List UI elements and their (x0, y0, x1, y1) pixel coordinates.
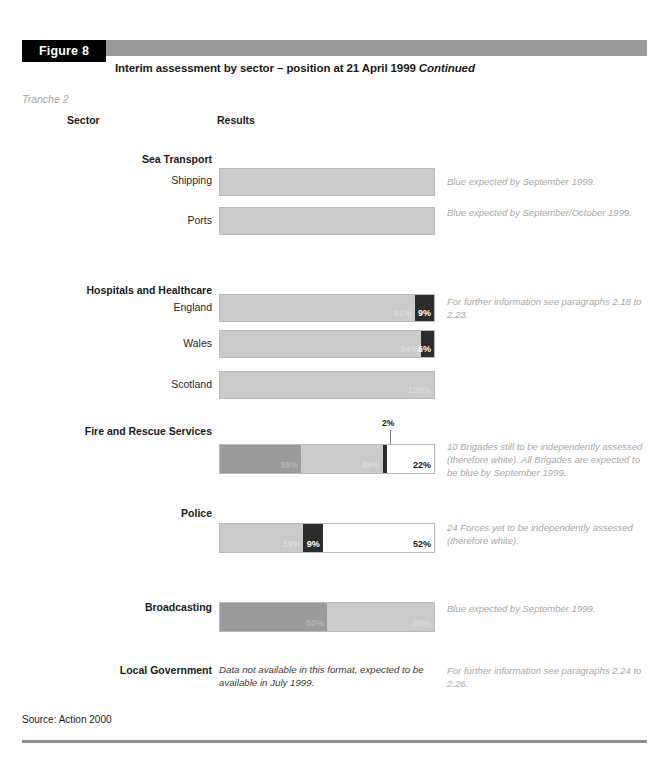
bar-segment-black: 9% (303, 524, 322, 552)
segment-pct-label: 100% (408, 386, 434, 398)
callout-2-percent: 2% (382, 418, 394, 428)
bar-police: 39% 9% 52% (219, 523, 435, 553)
group-label-fire-and-rescue-services: Fire and Rescue Services (12, 425, 212, 437)
bar-segment-amber (220, 169, 434, 195)
bar-ports (219, 207, 435, 235)
local-government-text: Data not available in this format, expec… (219, 663, 431, 690)
note-broadcasting: Blue expected by September 1999. (447, 602, 652, 615)
bar-segment-black: 6% (421, 331, 434, 357)
note-fire-and-rescue-services: 10 Brigades still to be independently as… (447, 440, 652, 479)
segment-pct-label (431, 231, 434, 234)
segment-pct-label: 38% (280, 461, 301, 473)
bar-segment-amber: 100% (220, 372, 434, 398)
segment-pct-label: 6% (418, 345, 434, 357)
source-label: Source: Action 2000 (22, 714, 112, 725)
segment-pct-label: 50% (413, 619, 434, 631)
row-label-ports: Ports (12, 214, 212, 226)
bar-segment-blue: 50% (220, 603, 327, 631)
bar-segment-white: 22% (387, 445, 434, 473)
bar-england: 91% 9% (219, 294, 435, 322)
bar-segment-white: 52% (323, 524, 434, 552)
group-label-hospitals-and-healthcare: Hospitals and Healthcare (12, 284, 212, 296)
chart-rows: Sea Transport Shipping Blue expected by … (0, 0, 669, 768)
segment-pct-label: 39% (282, 540, 303, 552)
note-england: For further information see paragraphs 2… (447, 295, 652, 321)
note-police: 24 Forces yet to be independently assess… (447, 521, 652, 547)
bar-broadcasting: 50% 50% (219, 602, 435, 632)
group-label-sea-transport: Sea Transport (12, 153, 212, 165)
row-label-england: England (12, 301, 212, 313)
bar-shipping (219, 168, 435, 196)
bar-scotland: 100% (219, 371, 435, 399)
segment-pct-label: 38% (362, 461, 383, 473)
segment-pct-label: 9% (307, 540, 323, 552)
note-ports: Blue expected by September/October 1999. (447, 206, 652, 219)
bar-fire-and-rescue-services: 38% 38% 22% (219, 444, 435, 474)
segment-pct-label: 9% (418, 309, 434, 321)
row-label-scotland: Scotland (12, 378, 212, 390)
segment-pct-label: 52% (413, 540, 434, 552)
bar-segment-amber: 39% (220, 524, 303, 552)
note-local-government: For further information see paragraphs 2… (447, 664, 652, 690)
callout-leader-line (390, 430, 391, 444)
bar-segment-black: 9% (415, 295, 434, 321)
note-shipping: Blue expected by September 1999. (447, 175, 652, 188)
row-label-shipping: Shipping (12, 174, 212, 186)
group-label-police: Police (12, 507, 212, 519)
group-label-local-government: Local Government (12, 664, 212, 676)
group-label-broadcasting: Broadcasting (12, 601, 212, 613)
bar-segment-amber: 50% (327, 603, 434, 631)
bar-segment-blue: 38% (220, 445, 301, 473)
bar-segment-amber (220, 208, 434, 234)
figure-page: Figure 8 Interim assessment by sector – … (0, 0, 669, 768)
segment-pct-label: 91% (394, 309, 415, 321)
row-label-wales: Wales (12, 337, 212, 349)
bar-segment-amber: 94% (220, 331, 421, 357)
bar-segment-amber: 38% (301, 445, 382, 473)
segment-pct-label (431, 192, 434, 195)
bar-wales: 94% 6% (219, 330, 435, 358)
footer-rule (22, 740, 647, 743)
segment-pct-label: 50% (306, 619, 327, 631)
segment-pct-label: 22% (413, 461, 434, 473)
bar-segment-amber: 91% (220, 295, 415, 321)
